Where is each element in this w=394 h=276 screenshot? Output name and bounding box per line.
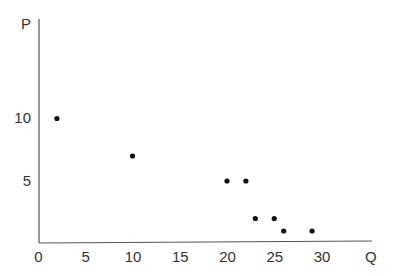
x-tick-label: 10 [125,248,142,265]
data-point [54,116,59,121]
data-point [309,228,314,233]
x-axis-label: Q [365,248,377,265]
data-point [224,178,229,183]
data-point [253,216,258,221]
x-axis-line [39,241,372,243]
scatter-chart: PQ051015202530510 [0,0,394,276]
x-tick-label: 0 [34,248,42,265]
x-tick-label: 20 [219,248,236,265]
data-point [130,153,135,158]
data-point [281,228,286,233]
x-tick-label: 25 [266,248,283,265]
x-tick-label: 15 [172,248,189,265]
x-tick-label: 5 [82,248,90,265]
y-tick-label: 5 [23,172,31,189]
x-tick-label: 30 [314,248,331,265]
data-point [243,178,248,183]
data-point [272,216,277,221]
y-axis-label: P [21,15,31,32]
chart-canvas: PQ051015202530510 [0,0,394,276]
y-tick-label: 10 [14,109,31,126]
